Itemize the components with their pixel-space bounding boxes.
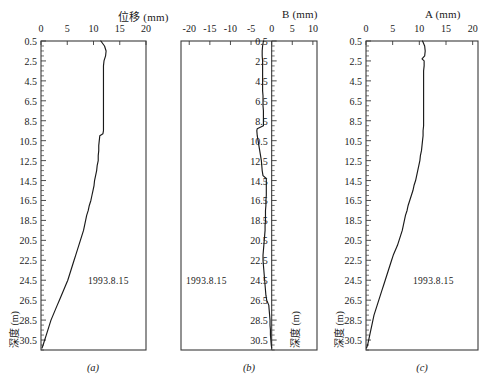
subfigure-caption-c: (c): [416, 362, 428, 373]
plot-graphics-c: [0, 0, 488, 382]
chart-panel-c: A (mm)051015200.52.54.56.58.510.512.514.…: [0, 0, 488, 382]
y-tick-label: 0.5: [332, 36, 362, 47]
y-tick-label: 18.5: [332, 215, 362, 226]
y-tick-label: 24.5: [332, 275, 362, 286]
y-tick-label: 22.5: [332, 255, 362, 266]
x-tick-label: 5: [390, 23, 395, 34]
y-tick-label: 6.5: [332, 95, 362, 106]
x-tick-label: 10: [414, 23, 424, 34]
y-tick-label: 12.5: [332, 155, 362, 166]
y-tick-label: 14.5: [332, 175, 362, 186]
y-tick-label: 20.5: [332, 235, 362, 246]
x-tick-label: 15: [441, 23, 451, 34]
curve-annotation-c: 1993.8.15: [413, 276, 454, 286]
y-tick-label: 8.5: [332, 115, 362, 126]
y-tick-label: 10.5: [332, 135, 362, 146]
x-tick-label: 0: [364, 23, 369, 34]
y-tick-label: 16.5: [332, 195, 362, 206]
y-tick-label: 26.5: [332, 295, 362, 306]
figure-canvas: 位移 (mm)051015200.52.54.56.58.510.512.514…: [0, 0, 488, 382]
y-tick-label: 4.5: [332, 75, 362, 86]
x-tick-label: 20: [468, 23, 478, 34]
y-tick-label: 2.5: [332, 55, 362, 66]
y-axis-label-c: 深度 (m): [331, 311, 346, 348]
plot-frame: [366, 41, 478, 350]
data-curve-c: [367, 41, 426, 348]
axis-title-c: A (mm): [425, 8, 461, 20]
